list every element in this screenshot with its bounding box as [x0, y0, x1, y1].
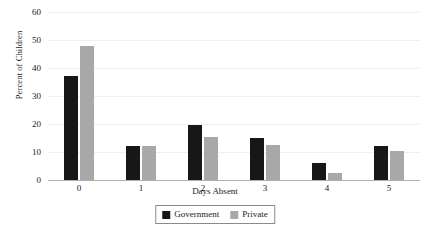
x-axis-tick-label: 0 [64, 183, 94, 193]
legend-label-private: Private [242, 210, 268, 219]
y-axis-tick-label: 20 [15, 119, 41, 129]
bar-chart: Percent of Children 0102030405060 Days A… [0, 0, 430, 234]
legend-swatch-private-icon [230, 211, 238, 219]
y-axis-tick-label: 40 [15, 63, 41, 73]
x-axis-tick-label: 4 [312, 183, 342, 193]
bar-private-5 [390, 151, 404, 180]
y-axis-tick-label: 60 [15, 7, 41, 17]
legend-item-government: Government [162, 210, 219, 219]
y-axis-tick-label: 10 [15, 147, 41, 157]
x-axis-tick-label: 2 [188, 183, 218, 193]
y-axis-tick-label: 30 [15, 91, 41, 101]
legend-swatch-government-icon [162, 211, 170, 219]
x-axis-line [48, 180, 420, 181]
legend-label-government: Government [174, 210, 219, 219]
x-axis-tick-label: 3 [250, 183, 280, 193]
x-axis-tick-label: 1 [126, 183, 156, 193]
bar-government-5 [374, 146, 388, 180]
plot-area: 0102030405060 [48, 12, 420, 180]
x-axis-tick-label: 5 [374, 183, 404, 193]
chart-legend: Government Private [155, 205, 275, 224]
bar-group [48, 12, 420, 180]
y-axis-tick-label: 0 [15, 175, 41, 185]
legend-item-private: Private [230, 210, 268, 219]
y-axis-tick-label: 50 [15, 35, 41, 45]
